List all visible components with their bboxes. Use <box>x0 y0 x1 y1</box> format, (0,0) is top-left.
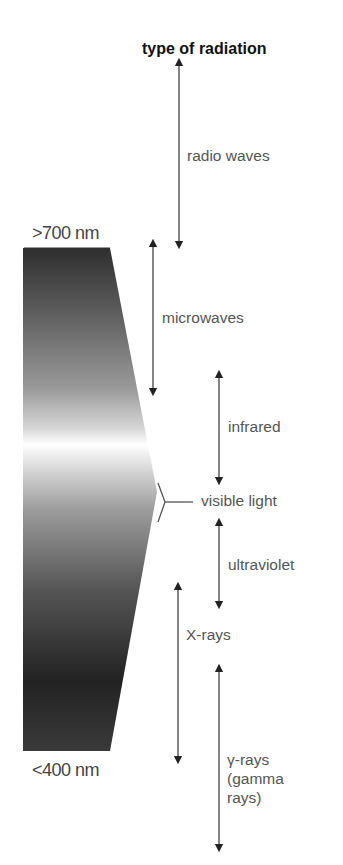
wavelength-bottom-label: <400 nm <box>32 760 99 781</box>
band-label-radio-waves: radio waves <box>187 146 270 165</box>
band-label-ultraviolet: ultraviolet <box>228 555 294 574</box>
band-label-infrared: infrared <box>228 417 281 436</box>
gamma-rays-line-3: rays) <box>227 788 284 807</box>
band-label-gamma-rays: γ-rays (gamma rays) <box>227 750 284 807</box>
gamma-rays-line-1: γ-rays <box>227 750 284 769</box>
diagram-title: type of radiation <box>142 40 266 58</box>
band-label-microwaves: microwaves <box>162 308 244 327</box>
wavelength-gradient-bar <box>23 248 157 751</box>
wavelength-top-label: >700 nm <box>32 223 99 244</box>
visible-light-bracket <box>158 483 193 522</box>
band-label-visible-light: visible light <box>201 491 277 510</box>
gamma-rays-line-2: (gamma <box>227 769 284 788</box>
spectrum-diagram <box>0 0 343 865</box>
band-label-x-rays: X-rays <box>186 625 231 644</box>
